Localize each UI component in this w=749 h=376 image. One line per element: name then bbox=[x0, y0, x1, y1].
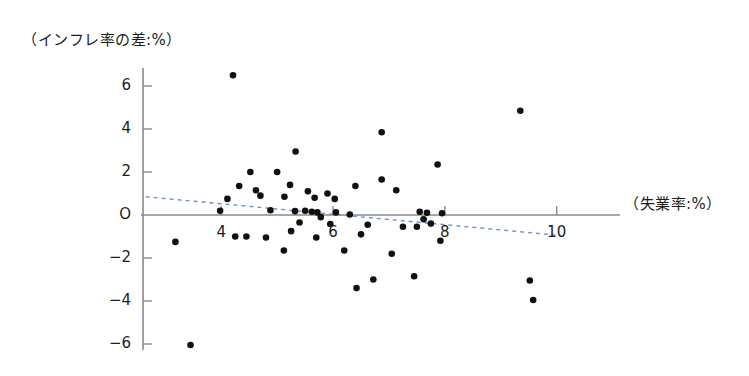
data-point bbox=[527, 277, 534, 284]
x-tick-label: 8 bbox=[432, 223, 458, 241]
data-point bbox=[424, 210, 431, 217]
x-tick-label: 10 bbox=[544, 223, 570, 241]
data-point bbox=[364, 221, 371, 228]
data-point bbox=[317, 214, 324, 221]
data-point bbox=[333, 209, 340, 216]
data-point bbox=[287, 182, 294, 189]
data-point bbox=[439, 210, 446, 217]
y-tick-label: 6 bbox=[97, 76, 131, 94]
data-point bbox=[311, 195, 318, 202]
data-point bbox=[253, 187, 260, 194]
data-point bbox=[302, 207, 309, 214]
data-point bbox=[263, 234, 270, 241]
data-point bbox=[324, 190, 331, 197]
data-point bbox=[292, 208, 299, 215]
data-point bbox=[434, 161, 441, 168]
data-point bbox=[358, 231, 365, 238]
data-point bbox=[305, 188, 312, 195]
data-point bbox=[353, 285, 360, 292]
data-point bbox=[274, 169, 281, 176]
plot-canvas bbox=[0, 0, 749, 376]
y-tick-label: −6 bbox=[97, 334, 131, 352]
data-point bbox=[247, 169, 254, 176]
data-point bbox=[230, 72, 237, 79]
data-point bbox=[224, 196, 231, 203]
data-point bbox=[187, 342, 194, 349]
data-point bbox=[281, 247, 288, 254]
data-points-group bbox=[172, 72, 536, 348]
data-point bbox=[378, 176, 385, 183]
y-tick-label: −2 bbox=[97, 248, 131, 266]
data-point bbox=[309, 208, 316, 215]
data-point bbox=[267, 207, 274, 214]
y-tick-label: 2 bbox=[97, 162, 131, 180]
data-point bbox=[243, 233, 250, 240]
scatter-plot-figure: （インフレ率の差:%） （失業率:%） 642O−2−4−6 46810 bbox=[0, 0, 749, 376]
data-point bbox=[331, 196, 338, 203]
data-point bbox=[420, 216, 427, 223]
data-point bbox=[416, 208, 423, 215]
data-point bbox=[352, 183, 359, 190]
data-point bbox=[313, 234, 320, 241]
data-point bbox=[172, 239, 179, 246]
y-tick-label: O bbox=[97, 205, 131, 223]
data-point bbox=[378, 129, 385, 136]
data-point bbox=[292, 148, 299, 155]
y-tick-label: −4 bbox=[97, 291, 131, 309]
y-tick-label: 4 bbox=[97, 119, 131, 137]
data-point bbox=[388, 250, 395, 257]
x-tick-label: 4 bbox=[208, 223, 234, 241]
axes-group bbox=[141, 68, 620, 350]
data-point bbox=[370, 276, 377, 283]
data-point bbox=[400, 224, 407, 231]
x-tick-label: 6 bbox=[320, 223, 346, 241]
data-point bbox=[517, 107, 524, 114]
data-point bbox=[296, 219, 303, 226]
data-point bbox=[257, 192, 264, 199]
data-point bbox=[411, 273, 418, 280]
data-point bbox=[288, 228, 295, 235]
data-point bbox=[393, 187, 400, 194]
data-point bbox=[217, 207, 224, 214]
data-point bbox=[347, 211, 354, 218]
data-point bbox=[530, 297, 537, 304]
data-point bbox=[281, 193, 288, 200]
data-point bbox=[236, 183, 243, 190]
data-point bbox=[341, 247, 348, 254]
data-point bbox=[414, 224, 421, 231]
